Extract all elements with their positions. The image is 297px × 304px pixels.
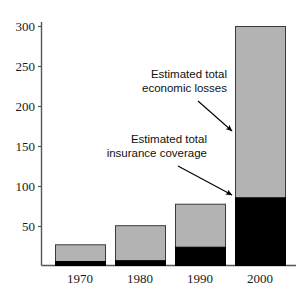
y-tick-label-100: 100 (16, 179, 36, 194)
annotation-economic-losses-line2: economic losses (142, 82, 227, 94)
bar-1990-insurance-coverage (176, 247, 226, 265)
y-tick-label-200: 200 (16, 99, 36, 114)
chart-canvas: 300 250 200 150 100 50 1970 1980 1990 20… (0, 0, 297, 304)
bar-group-2000 (236, 27, 286, 266)
bar-1980-economic-losses (116, 226, 166, 266)
y-tick-label-250: 250 (16, 59, 36, 74)
x-tick-label-1970: 1970 (67, 271, 93, 286)
x-tick-label-2000: 2000 (247, 271, 273, 286)
annotation-economic-losses-line1: Estimated total (151, 68, 227, 80)
bar-1970-insurance-coverage (56, 262, 106, 266)
annotation-insurance-coverage-line2: insurance coverage (107, 147, 207, 159)
stacked-bar-chart: 300 250 200 150 100 50 1970 1980 1990 20… (0, 0, 297, 304)
y-tick-label-150: 150 (16, 139, 36, 154)
x-tick-label-1980: 1980 (127, 271, 153, 286)
bar-group-1990 (176, 204, 226, 265)
annotation-insurance-coverage-line1: Estimated total (131, 133, 207, 145)
bar-group-1970 (56, 245, 106, 266)
bar-1980-insurance-coverage (116, 261, 166, 266)
y-tick-label-50: 50 (22, 219, 35, 234)
bar-group-1980 (116, 226, 166, 266)
y-tick-label-300: 300 (16, 19, 36, 34)
x-tick-label-1990: 1990 (187, 271, 213, 286)
bar-2000-insurance-coverage (236, 198, 286, 266)
